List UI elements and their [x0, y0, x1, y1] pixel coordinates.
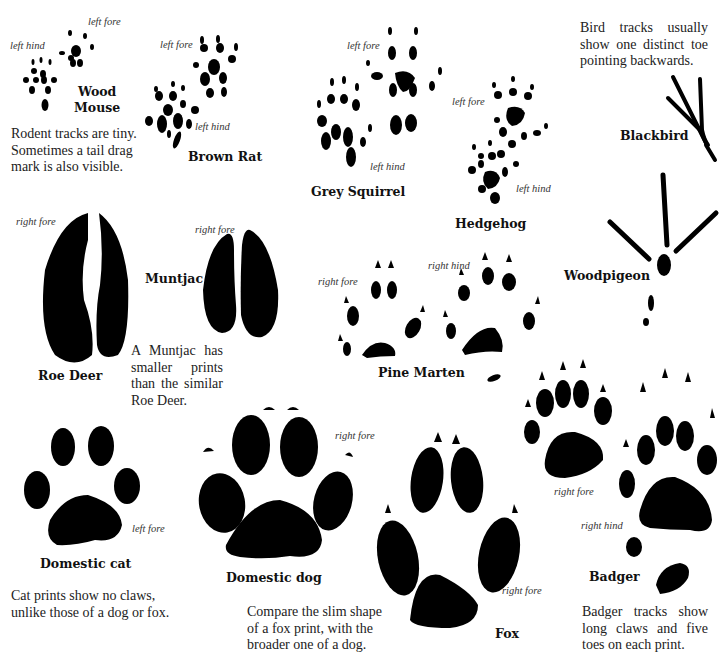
- roe-deer-name: Roe Deer: [38, 368, 102, 383]
- bird-caption: Bird tracks usually show one distinct to…: [580, 20, 708, 70]
- muntjac-fore-label: right fore: [195, 224, 235, 235]
- domestic-cat-print-icon: [24, 426, 140, 545]
- pine-marten-prints-icon: [338, 252, 540, 383]
- rodent-caption: Rodent tracks are tiny. Sometimes a tail…: [11, 126, 151, 176]
- cat-caption-line: Cat prints show no claws,: [11, 588, 211, 605]
- grey-squirrel-fore-label: left fore: [347, 40, 380, 51]
- roe-deer-hoof-icon: [43, 213, 128, 363]
- wood-mouse-name: Wood Mouse: [74, 84, 120, 116]
- hedgehog-fore-label: left fore: [452, 96, 485, 107]
- fox-name: Fox: [495, 626, 519, 641]
- badger-name: Badger: [589, 569, 640, 584]
- fox-dog-caption-line: broader one of a dog.: [247, 637, 427, 654]
- domestic-cat-name: Domestic cat: [40, 556, 131, 571]
- grey-squirrel-name: Grey Squirrel: [311, 184, 405, 199]
- domestic-dog-fore-label: right fore: [335, 430, 375, 441]
- wood-mouse-name-line2: Mouse: [74, 100, 120, 116]
- pine-marten-name: Pine Marten: [378, 365, 465, 380]
- domestic-dog-name: Domestic dog: [226, 570, 322, 585]
- hedgehog-name: Hedgehog: [455, 216, 526, 231]
- cat-caption-line: unlike those of a dog or fox.: [11, 605, 211, 622]
- fox-dog-caption-line: Compare the slim shape: [247, 604, 427, 621]
- badger-fore-label: right fore: [554, 486, 594, 497]
- muntjac-hoof-icon: [203, 230, 278, 338]
- pine-marten-fore-label: right fore: [318, 276, 358, 287]
- wood-mouse-fore-label: left fore: [88, 16, 121, 27]
- grey-squirrel-hind-label: left hind: [370, 161, 405, 172]
- wood-mouse-name-line1: Wood: [74, 84, 120, 100]
- rodent-caption-line: Sometimes a tail drag: [11, 143, 151, 160]
- rodent-caption-line: mark is also visible.: [11, 159, 151, 176]
- roe-deer-fore-label: right fore: [16, 216, 56, 227]
- brown-rat-prints-icon: [145, 35, 238, 149]
- muntjac-caption: A Muntjac has smaller prints than the si…: [131, 343, 223, 409]
- woodpigeon-track-icon: [610, 175, 716, 326]
- woodpigeon-name: Woodpigeon: [564, 268, 650, 283]
- rodent-caption-line: Rodent tracks are tiny.: [11, 126, 151, 143]
- cat-caption: Cat prints show no claws, unlike those o…: [11, 588, 211, 621]
- brown-rat-hind-label: left hind: [195, 121, 230, 132]
- muntjac-name: Muntjac: [145, 271, 203, 286]
- blackbird-name: Blackbird: [620, 128, 689, 143]
- brown-rat-name: Brown Rat: [188, 149, 262, 164]
- brown-rat-fore-label: left fore: [160, 39, 193, 50]
- hedgehog-hind-label: left hind: [516, 183, 551, 194]
- fox-dog-caption-line: of a fox print, with the: [247, 621, 427, 638]
- fox-dog-caption: Compare the slim shape of a fox print, w…: [247, 604, 427, 654]
- domestic-cat-fore-label: left fore: [132, 523, 165, 534]
- badger-caption: Badger tracks show long claws and five t…: [582, 604, 708, 654]
- badger-hind-label: right hind: [581, 520, 623, 531]
- fox-fore-label: right fore: [502, 585, 542, 596]
- pine-marten-hind-label: right hind: [428, 260, 470, 271]
- wood-mouse-hind-label: left hind: [10, 40, 45, 51]
- badger-prints-icon: [524, 359, 717, 594]
- fox-print-icon: [371, 432, 527, 628]
- blackbird-track-icon: [668, 77, 715, 160]
